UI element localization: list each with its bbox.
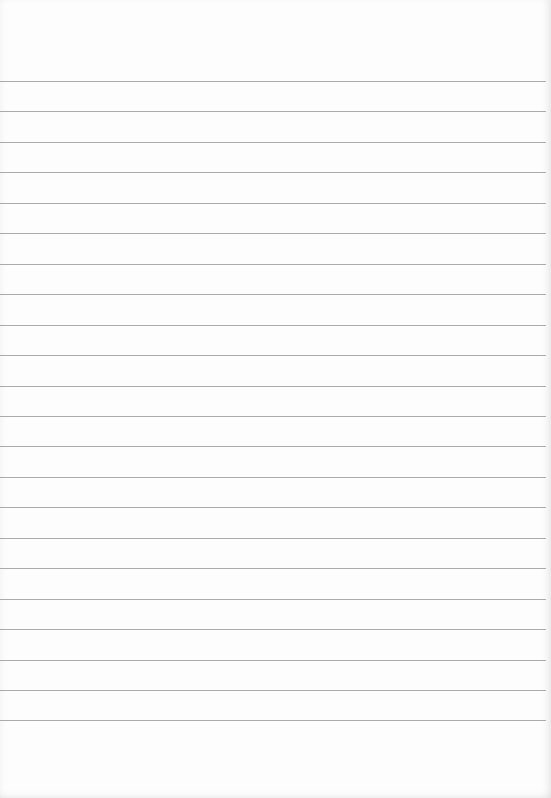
ruled-line [0, 233, 546, 234]
ruled-line [0, 355, 546, 356]
ruled-line [0, 81, 546, 82]
ruled-line [0, 690, 546, 691]
ruled-line [0, 629, 546, 630]
ruled-line [0, 660, 546, 661]
ruled-line [0, 507, 546, 508]
ruled-line [0, 538, 546, 539]
ruled-line [0, 599, 546, 600]
ruled-line [0, 111, 546, 112]
ruled-line [0, 446, 546, 447]
ruled-line [0, 172, 546, 173]
ruled-line [0, 416, 546, 417]
ruled-line [0, 477, 546, 478]
ruled-line [0, 325, 546, 326]
ruled-line [0, 294, 546, 295]
ruled-line [0, 568, 546, 569]
ruled-line [0, 720, 546, 721]
ruled-line [0, 203, 546, 204]
ruled-line [0, 386, 546, 387]
ruled-line [0, 142, 546, 143]
ruled-line [0, 264, 546, 265]
lined-paper-sheet [0, 0, 551, 798]
